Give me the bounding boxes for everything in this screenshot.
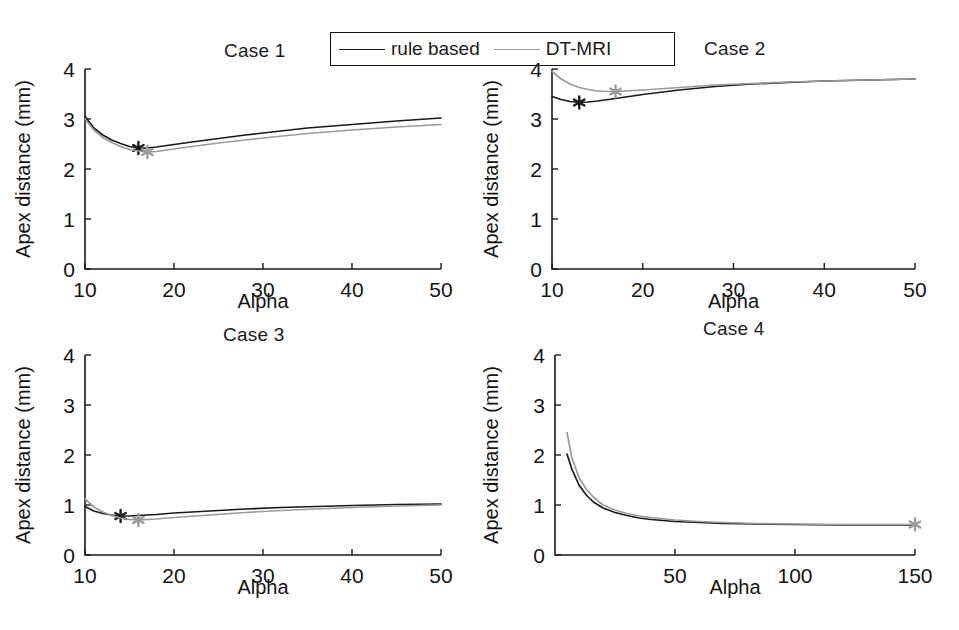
svg-text:1: 1 — [63, 208, 75, 231]
figure-canvas: rule based DT-MRI Case 1 Case 2 Case 3 C… — [0, 0, 959, 630]
subplot-case-1: 012341020304050Apex distance (mm)Alpha — [0, 55, 480, 315]
subplot-case-2: 012341020304050Apex distance (mm)Alpha — [470, 55, 959, 315]
svg-text:3: 3 — [530, 108, 542, 131]
svg-text:50: 50 — [429, 564, 452, 587]
svg-text:50: 50 — [663, 564, 686, 587]
svg-text:3: 3 — [63, 394, 75, 417]
svg-text:2: 2 — [63, 158, 75, 181]
svg-text:4: 4 — [530, 58, 542, 81]
svg-text:10: 10 — [73, 278, 96, 301]
svg-text:4: 4 — [533, 344, 545, 367]
svg-text:0: 0 — [533, 544, 545, 567]
chart-svg-case-2: 012341020304050Apex distance (mm)Alpha — [470, 55, 959, 315]
svg-text:10: 10 — [73, 564, 96, 587]
series-line-dt-mri — [567, 433, 915, 525]
legend-swatch-dt-mri — [494, 49, 540, 50]
svg-text:20: 20 — [631, 278, 654, 301]
svg-text:50: 50 — [429, 278, 452, 301]
svg-text:1: 1 — [533, 494, 545, 517]
subplot-case-4: 0123450100150Apex distance (mm)Alpha — [470, 333, 959, 598]
svg-text:1: 1 — [530, 208, 542, 231]
svg-text:10: 10 — [540, 278, 563, 301]
svg-text:100: 100 — [777, 564, 812, 587]
chart-svg-case-3: 012341020304050Apex distance (mm)Alpha — [0, 333, 480, 598]
svg-text:3: 3 — [533, 394, 545, 417]
svg-text:2: 2 — [63, 444, 75, 467]
y-axis-label: Apex distance (mm) — [12, 366, 34, 544]
series-line-rule-based — [567, 454, 915, 525]
svg-text:40: 40 — [813, 278, 836, 301]
series-line-dt-mri — [552, 72, 915, 92]
svg-text:150: 150 — [897, 564, 932, 587]
svg-text:20: 20 — [162, 278, 185, 301]
svg-text:1: 1 — [63, 494, 75, 517]
chart-svg-case-1: 012341020304050Apex distance (mm)Alpha — [0, 55, 480, 315]
legend-swatch-rule-based — [339, 49, 385, 50]
svg-text:3: 3 — [63, 108, 75, 131]
x-axis-label: Alpha — [709, 576, 761, 598]
y-axis-label: Apex distance (mm) — [12, 80, 34, 258]
svg-text:20: 20 — [162, 564, 185, 587]
svg-text:2: 2 — [530, 158, 542, 181]
svg-text:4: 4 — [63, 344, 75, 367]
svg-text:4: 4 — [63, 58, 75, 81]
y-axis-label: Apex distance (mm) — [480, 366, 502, 544]
svg-text:2: 2 — [533, 444, 545, 467]
subplot-case-3: 012341020304050Apex distance (mm)Alpha — [0, 333, 480, 598]
svg-text:40: 40 — [340, 564, 363, 587]
x-axis-label: Alpha — [708, 290, 760, 312]
chart-svg-case-4: 0123450100150Apex distance (mm)Alpha — [470, 333, 959, 598]
y-axis-label: Apex distance (mm) — [480, 80, 502, 258]
svg-text:40: 40 — [340, 278, 363, 301]
x-axis-label: Alpha — [237, 576, 289, 598]
svg-text:50: 50 — [903, 278, 926, 301]
x-axis-label: Alpha — [237, 290, 289, 312]
